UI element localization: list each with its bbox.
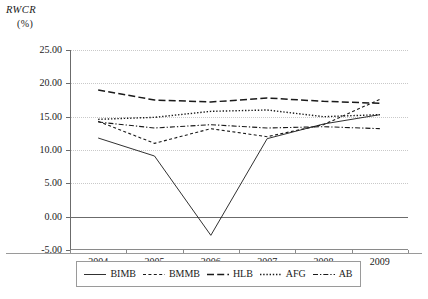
chart-legend: BIMBBMMBHLBAFGAB — [76, 261, 361, 287]
series-lines — [70, 50, 408, 250]
y-axis-unit: (%) — [17, 18, 33, 29]
legend-swatch-afg-icon — [260, 271, 282, 278]
legend-label: BIMB — [110, 269, 136, 279]
legend-label: AFG — [286, 269, 306, 279]
y-axis-tick-label: 20.00 — [6, 77, 62, 88]
legend-separator-rule — [6, 253, 422, 254]
series-line-ab — [98, 122, 380, 129]
y-axis-tick-label: 10.00 — [6, 144, 62, 155]
y-axis-tick-label: 25.00 — [6, 44, 62, 55]
y-axis-tick-label: 15.00 — [6, 111, 62, 122]
legend-label: HLB — [233, 269, 253, 279]
y-axis-title: RWCR — [6, 4, 36, 15]
chart-figure: RWCR (%) 25.0020.0015.0010.005.000.00-5.… — [0, 0, 428, 299]
legend-swatch-bimb-icon — [84, 271, 106, 278]
y-axis-tick-label: 0.00 — [6, 211, 62, 222]
legend-item-bimb[interactable]: BIMB — [84, 269, 136, 279]
legend-label: AB — [339, 269, 353, 279]
y-axis-tick-label: 5.00 — [6, 177, 62, 188]
plot-area — [70, 50, 408, 250]
series-line-hlb — [98, 90, 380, 103]
legend-item-ab[interactable]: AB — [313, 269, 353, 279]
legend-swatch-hlb-icon — [207, 271, 229, 278]
legend-item-bmmb[interactable]: BMMB — [143, 269, 200, 279]
legend-item-afg[interactable]: AFG — [260, 269, 306, 279]
legend-swatch-bmmb-icon — [143, 271, 165, 278]
legend-label: BMMB — [169, 269, 200, 279]
legend-swatch-ab-icon — [313, 271, 335, 278]
legend-item-hlb[interactable]: HLB — [207, 269, 253, 279]
